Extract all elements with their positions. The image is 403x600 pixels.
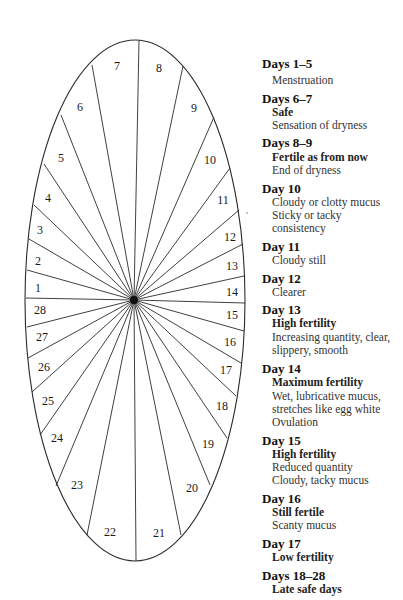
legend-heading: Day 14 xyxy=(262,362,301,375)
legend-description: consistency xyxy=(272,223,326,235)
legend-fertility-status: Maximum fertility xyxy=(272,377,363,389)
legend-fertility-status: High fertility xyxy=(272,449,336,461)
legend-description: Menstruation xyxy=(272,75,333,87)
legend-description: Scanty mucus xyxy=(272,520,336,532)
legend-heading: Day 10 xyxy=(262,182,301,195)
legend-description: Cloudy still xyxy=(272,255,326,267)
legend-description: Reduced quantity xyxy=(272,462,353,474)
legend-heading: Days 1–5 xyxy=(262,57,312,70)
cycle-legend: Days 1–5MenstruationDays 6–7SafeSensatio… xyxy=(0,0,403,600)
legend-description: End of dryness xyxy=(272,165,341,177)
legend-heading: Day 16 xyxy=(262,492,301,505)
legend-fertility-status: Safe xyxy=(272,107,293,119)
legend-fertility-status: Still fertile xyxy=(272,507,324,519)
legend-description: Sensation of dryness xyxy=(272,120,367,132)
legend-fertility-status: Low fertility xyxy=(272,552,334,564)
legend-fertility-status: High fertility xyxy=(272,318,336,330)
legend-heading: Days 18–28 xyxy=(262,569,325,582)
legend-description: Wet, lubricative mucus, xyxy=(272,391,381,403)
legend-heading: Days 6–7 xyxy=(262,92,312,105)
legend-fertility-status: Fertile as from now xyxy=(272,152,368,164)
legend-heading: Days 8–9 xyxy=(262,136,312,149)
legend-description: Ovulation xyxy=(272,417,318,429)
legend-description: Increasing quantity, clear, xyxy=(272,332,390,344)
legend-description: Cloudy, tacky mucus xyxy=(272,475,369,487)
legend-heading: Day 11 xyxy=(262,240,300,253)
legend-heading: Day 12 xyxy=(262,272,301,285)
legend-description: Clearer xyxy=(272,287,306,299)
legend-description: stretches like egg white xyxy=(272,404,380,416)
legend-description: slippery, smooth xyxy=(272,345,348,357)
legend-heading: Day 17 xyxy=(262,537,301,550)
legend-fertility-status: Late safe days xyxy=(272,584,342,596)
legend-description: Cloudy or clotty mucus xyxy=(272,197,380,209)
legend-heading: Day 15 xyxy=(262,434,301,447)
legend-heading: Day 13 xyxy=(262,303,301,316)
legend-description: Sticky or tacky xyxy=(272,210,342,222)
